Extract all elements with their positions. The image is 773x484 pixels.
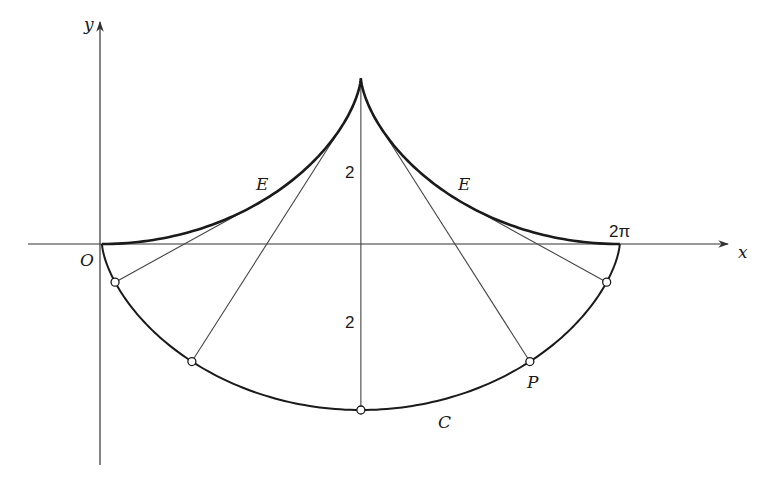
x-axis-label: x [738,242,748,262]
point-marker [111,278,119,286]
evolute-label-right: E [457,174,471,194]
point-marker [357,406,365,414]
point-marker [188,358,196,366]
point-p-label: P [526,372,539,392]
depth-label-lower: 2 [345,313,354,332]
point-p-marker [526,358,534,366]
point-marker [603,278,611,286]
cycloid-evolute-diagram: y x O 2π E E C P 2 2 [0,0,773,484]
evolute-label-left: E [255,174,269,194]
cycloid-label: C [438,412,451,432]
two-pi-tick-label: 2π [609,222,630,241]
height-label-upper: 2 [345,163,354,182]
y-axis-label: y [83,14,94,34]
origin-label: O [80,250,94,270]
